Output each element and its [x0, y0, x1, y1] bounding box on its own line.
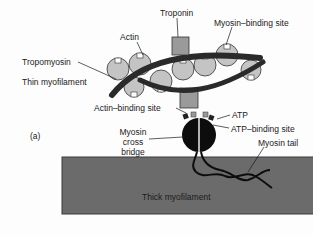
- label-myosin-binding-site: Myosin–binding site: [214, 18, 289, 28]
- label-actin-binding-site: Actin–binding site: [94, 103, 161, 113]
- label-tropomyosin: Tropomyosin: [22, 57, 71, 67]
- label-atp-binding-site: ATP–binding site: [231, 124, 295, 134]
- label-troponin: Troponin: [160, 8, 193, 18]
- label-myosin-cross-bridge-line2: cross: [118, 137, 148, 147]
- troponin-upper-block: [172, 37, 189, 55]
- panel-label: (a): [30, 131, 40, 141]
- label-myosin-cross-bridge-line3: bridge: [118, 147, 148, 157]
- label-actin: Actin: [120, 32, 139, 42]
- thick-myofilament-shape: [62, 157, 313, 214]
- label-myosin-cross-bridge-line1: Myosin: [118, 127, 148, 137]
- label-atp: ATP: [232, 110, 248, 120]
- label-thin-myofilament: Thin myofilament: [22, 77, 87, 87]
- muscle-filament-diagram: Troponin Actin Myosin–binding site Tropo…: [0, 0, 313, 235]
- label-myosin-tail: Myosin tail: [258, 138, 298, 148]
- label-thick-myofilament: Thick myofilament: [142, 192, 211, 202]
